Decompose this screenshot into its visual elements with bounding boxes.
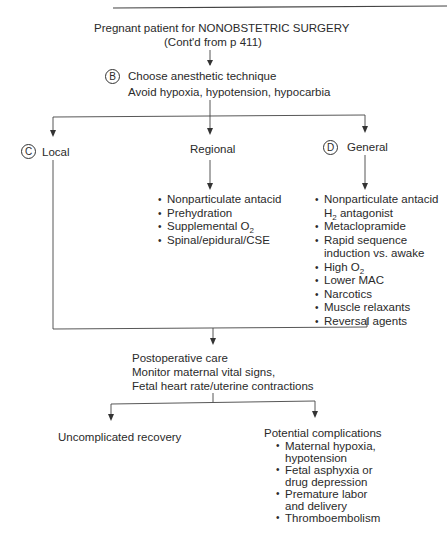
list-item: Thromboembolism: [276, 512, 380, 524]
list-item: Metaclopramide: [315, 220, 438, 234]
postop-fetal: Fetal heart rate/uterine contractions: [132, 379, 314, 393]
branch-regional-label: Regional: [190, 142, 235, 156]
marker-b: B: [105, 69, 120, 84]
list-item: Rapid sequence: [315, 234, 438, 248]
start-title: Pregnant patient for NONOBSTETRIC SURGER…: [94, 21, 349, 35]
list-item: Reversal agents: [315, 315, 438, 329]
list-item: High O2: [315, 261, 438, 275]
list-item-continuation: drug depression: [276, 476, 380, 488]
step-b-title: Choose anesthetic technique: [128, 69, 276, 83]
list-item: Maternal hypoxia,: [276, 440, 380, 452]
list-item: Fetal asphyxia or: [276, 464, 380, 476]
outcome-complications-title: Potential complications: [264, 426, 382, 440]
complications-list: Maternal hypoxia, hypotension Fetal asph…: [276, 440, 380, 524]
list-item-continuation: induction vs. awake: [315, 247, 438, 261]
postop-monitor: Monitor maternal vital signs,: [132, 365, 275, 379]
list-item: Muscle relaxants: [315, 301, 438, 315]
list-item: Prehydration: [158, 207, 281, 221]
postop-title: Postoperative care: [132, 351, 228, 365]
step-b-detail: Avoid hypoxia, hypotension, hypocarbia: [128, 85, 330, 99]
list-item: Spinal/epidural/CSE: [158, 234, 281, 248]
regional-list: Nonparticulate antacid Prehydration Supp…: [158, 193, 281, 247]
branch-local-label: Local: [42, 145, 70, 159]
list-item: Nonparticulate antacid: [315, 193, 438, 207]
list-item-continuation: H2 antagonist: [315, 207, 438, 221]
general-list: Nonparticulate antacid H2 antagonist Met…: [315, 193, 438, 328]
marker-d: D: [323, 140, 338, 155]
list-item-continuation: and delivery: [276, 500, 380, 512]
marker-c: C: [21, 144, 36, 159]
list-item: Lower MAC: [315, 274, 438, 288]
start-subtitle: (Cont'd from p 411): [164, 35, 262, 49]
list-item: Supplemental O2: [158, 220, 281, 234]
list-item: Premature labor: [276, 488, 380, 500]
list-item-continuation: hypotension: [276, 452, 380, 464]
branch-general-label: General: [347, 140, 388, 154]
list-item: Narcotics: [315, 288, 438, 302]
outcome-uncomplicated: Uncomplicated recovery: [58, 430, 181, 444]
list-item: Nonparticulate antacid: [158, 193, 281, 207]
